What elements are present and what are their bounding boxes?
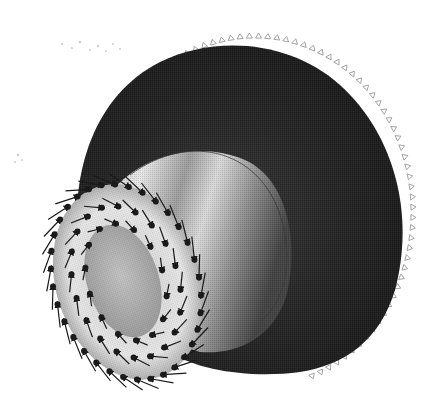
load-arrow-icon xyxy=(52,286,53,309)
constraint-marker-icon xyxy=(237,34,243,39)
constraint-marker-icon xyxy=(318,49,323,55)
constraint-marker-icon xyxy=(399,274,405,280)
constraint-marker-icon xyxy=(228,35,234,40)
arrow-head-icon xyxy=(52,231,58,237)
arrow-head-icon xyxy=(75,194,81,200)
fea-model-illustration xyxy=(0,0,426,415)
arrow-head-icon xyxy=(131,227,137,233)
constraint-marker-icon xyxy=(411,214,416,220)
constraint-marker-icon xyxy=(219,37,225,43)
arrow-head-icon xyxy=(149,332,155,338)
arrow-head-icon xyxy=(163,241,169,247)
arrow-head-icon xyxy=(172,263,178,269)
constraint-marker-icon xyxy=(405,164,411,170)
constraint-marker-icon xyxy=(402,154,408,160)
arrow-head-icon xyxy=(85,213,91,219)
arrow-head-icon xyxy=(185,240,191,246)
arrow-head-icon xyxy=(133,337,139,343)
arrow-head-icon xyxy=(55,301,61,307)
constraint-marker-icon xyxy=(274,35,280,40)
constraint-marker-icon xyxy=(395,136,401,141)
arrow-head-icon xyxy=(113,348,119,354)
constraint-marker-icon xyxy=(309,45,315,51)
arrow-head-icon xyxy=(57,217,63,223)
arrow-head-icon xyxy=(165,210,171,216)
arrow-head-icon xyxy=(148,244,154,250)
constraint-marker-icon xyxy=(409,184,414,190)
arrow-head-icon xyxy=(83,317,89,323)
arrow-head-icon xyxy=(172,330,178,336)
arrow-head-icon xyxy=(176,224,182,230)
arrow-head-icon xyxy=(120,374,126,380)
arrow-head-icon xyxy=(134,377,140,383)
arrow-head-icon xyxy=(86,242,92,248)
constraint-marker-icon xyxy=(405,255,411,261)
arrow-head-icon xyxy=(82,265,88,271)
arrow-head-icon xyxy=(106,368,112,374)
arrow-head-icon xyxy=(161,345,167,351)
arrow-head-icon xyxy=(160,316,166,322)
load-arrow-icon xyxy=(150,379,173,383)
constraint-marker-icon xyxy=(246,33,252,38)
arrow-head-icon xyxy=(112,181,118,187)
constraint-marker-icon xyxy=(381,109,387,114)
arrow-head-icon xyxy=(159,267,165,273)
arrow-head-icon xyxy=(177,287,183,293)
constraint-marker-icon xyxy=(391,127,397,132)
constraint-marker-icon xyxy=(292,39,298,45)
load-arrow-icon xyxy=(199,254,200,277)
arrow-head-icon xyxy=(115,203,121,209)
constraint-marker-icon xyxy=(283,36,289,41)
constraint-marker-icon xyxy=(349,71,354,77)
arrow-head-icon xyxy=(97,226,103,232)
constraint-marker-icon xyxy=(407,245,413,251)
constraint-marker-icon xyxy=(411,204,416,210)
arrow-head-icon xyxy=(149,222,155,228)
arrow-head-icon xyxy=(81,348,87,354)
arrow-head-icon xyxy=(74,295,80,301)
constraint-marker-icon xyxy=(309,373,315,379)
constraint-marker-icon xyxy=(399,145,405,151)
arrow-head-icon xyxy=(48,265,54,271)
arrow-head-icon xyxy=(177,310,183,316)
arrow-head-icon xyxy=(113,221,119,227)
arrow-head-icon xyxy=(194,327,200,333)
arrow-head-icon xyxy=(69,248,75,254)
arrow-head-icon xyxy=(147,353,153,359)
arrow-head-icon xyxy=(197,310,203,316)
arrow-head-icon xyxy=(153,198,159,204)
arrow-head-icon xyxy=(70,334,76,340)
arrow-head-icon xyxy=(97,336,103,342)
arrow-head-icon xyxy=(189,341,195,347)
constraint-marker-icon xyxy=(386,118,392,123)
constraint-marker-icon xyxy=(300,42,306,48)
load-arrow-icon xyxy=(58,304,61,327)
load-arrow-icon xyxy=(137,380,159,389)
arrow-head-icon xyxy=(131,355,137,361)
constraint-marker-icon xyxy=(410,194,415,200)
arrow-head-icon xyxy=(69,271,75,277)
arrow-head-icon xyxy=(140,190,146,196)
arrow-head-icon xyxy=(191,257,197,263)
arrow-head-icon xyxy=(93,360,99,366)
arrow-head-icon xyxy=(181,354,187,360)
arrow-head-icon xyxy=(74,228,80,234)
arrow-head-icon xyxy=(99,205,105,211)
constraint-marker-icon xyxy=(369,93,375,99)
arrow-head-icon xyxy=(171,364,177,370)
arrow-head-icon xyxy=(133,210,139,216)
constraint-marker-icon xyxy=(202,43,208,49)
load-arrow-icon xyxy=(47,268,51,291)
constraint-marker-icon xyxy=(256,33,262,38)
arrow-head-icon xyxy=(198,293,204,299)
constraint-marker-icon xyxy=(356,78,362,84)
arrow-head-icon xyxy=(147,376,153,382)
constraint-marker-icon xyxy=(265,34,271,39)
constraint-marker-icon xyxy=(342,65,347,71)
arrow-head-icon xyxy=(98,314,104,320)
fea-render-viewport: FEA model of stepped cylindrical part wi… xyxy=(0,0,426,415)
arrow-head-icon xyxy=(61,318,67,324)
arrow-head-icon xyxy=(126,184,132,190)
constraint-marker-icon xyxy=(363,85,369,91)
constraint-marker-icon xyxy=(375,101,381,106)
